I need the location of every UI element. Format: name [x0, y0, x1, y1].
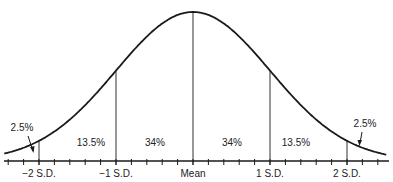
- region-label: 2.5%: [11, 122, 34, 133]
- x-tick-label: Mean: [180, 168, 205, 179]
- region-label: 13.5%: [77, 137, 105, 148]
- region-label: 2.5%: [354, 118, 377, 129]
- x-tick-label: 1 S.D.: [256, 168, 284, 179]
- normal-distribution-chart: −2 S.D.−1 S.D.Mean1 S.D.2 S.D.2.5%13.5%3…: [0, 0, 393, 182]
- region-label: 34%: [222, 137, 242, 148]
- x-tick-label: 2 S.D.: [333, 168, 361, 179]
- x-tick-label: −1 S.D.: [99, 168, 133, 179]
- region-label: 13.5%: [282, 137, 310, 148]
- region-label: 34%: [145, 137, 165, 148]
- left-tail-arrowhead: [30, 146, 35, 153]
- normal-curve: [4, 12, 386, 155]
- x-tick-label: −2 S.D.: [22, 168, 56, 179]
